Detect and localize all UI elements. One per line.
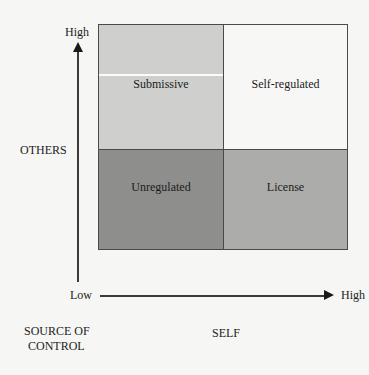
quadrant-unregulated: Unregulated xyxy=(99,150,224,249)
origin-low-label: Low xyxy=(70,288,92,303)
y-axis-line xyxy=(77,46,79,282)
quadrant-self-regulated: Self-regulated xyxy=(224,25,347,150)
matrix-grid: Submissive Self-regulated Unregulated Li… xyxy=(98,24,348,250)
quadrant-label-submissive: Submissive xyxy=(133,77,188,92)
y-axis-arrow-icon xyxy=(73,42,83,52)
y-axis-title: OTHERS xyxy=(20,143,67,158)
quadrant-label-unregulated: Unregulated xyxy=(131,180,190,195)
corner-title-line2: CONTROL xyxy=(28,339,85,354)
quadrant-label-self-regulated: Self-regulated xyxy=(252,77,320,92)
quadrant-license: License xyxy=(224,150,347,249)
x-axis-high-label: High xyxy=(341,288,365,303)
x-axis-title: SELF xyxy=(212,326,240,341)
y-axis-high-label: High xyxy=(65,25,89,40)
corner-title-line1: SOURCE OF xyxy=(24,324,90,339)
x-axis-arrow-icon xyxy=(324,290,334,300)
x-axis-line xyxy=(100,295,326,297)
quadrant-submissive: Submissive xyxy=(99,25,224,150)
quadrant-label-license: License xyxy=(267,180,304,195)
